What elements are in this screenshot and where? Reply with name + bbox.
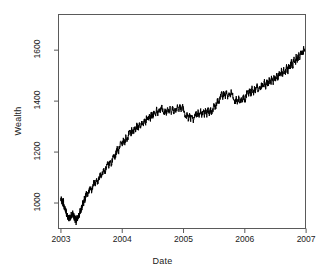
x-tick-label-0: 2003	[41, 234, 81, 244]
y-tick-label-2: 1400	[32, 83, 42, 117]
y-tick-label-0: 1000	[32, 185, 42, 219]
x-tick-label-4: 2007	[286, 234, 325, 244]
y-tick-label-1: 1200	[32, 134, 42, 168]
y-axis-title: Wealth	[13, 91, 23, 151]
x-tick-label-1: 2004	[102, 234, 142, 244]
x-axis-title: Date	[0, 256, 325, 266]
y-tick-label-3: 1600	[32, 32, 42, 66]
chart-figure: Wealth Date 2003200420052006200710001200…	[0, 0, 325, 276]
x-tick-label-2: 2005	[164, 234, 204, 244]
x-tick-label-3: 2006	[225, 234, 265, 244]
